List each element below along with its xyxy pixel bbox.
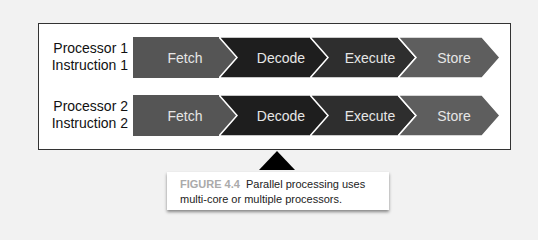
processor-label: Processor 1 [46,40,128,57]
stage-store: Store [398,37,500,78]
instruction-label: Instruction 2 [46,115,128,132]
stage-label: Decode [257,50,305,66]
figure-number: FIGURE 4.4 [180,178,240,190]
stage-label: Fetch [167,50,202,66]
stage-store: Store [398,95,500,136]
stage-label: Decode [257,108,305,124]
processor-label: Processor 2 [46,98,128,115]
instruction-label: Instruction 1 [46,57,128,74]
stage-label: Store [437,50,470,66]
figure-caption: FIGURE 4.4 Parallel processing uses mult… [167,172,389,210]
caption-pointer-icon [259,151,295,170]
row-label-2: Processor 2 Instruction 2 [46,98,128,132]
stage-label: Execute [345,108,396,124]
row-label-1: Processor 1 Instruction 1 [46,40,128,74]
stage-label: Execute [345,50,396,66]
stage-label: Store [437,108,470,124]
stage-label: Fetch [167,108,202,124]
